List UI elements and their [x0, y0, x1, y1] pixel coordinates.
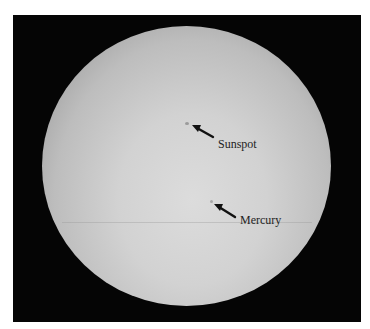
annotation-arrows: [0, 0, 370, 329]
sunspot-arrow-icon: [192, 125, 213, 137]
mercury-label: Mercury: [240, 214, 281, 226]
mercury-arrow-icon: [214, 204, 235, 217]
sunspot-label: Sunspot: [218, 138, 257, 150]
